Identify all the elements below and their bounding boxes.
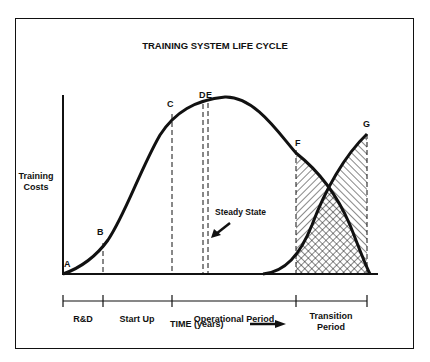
point-f-label: F (295, 138, 301, 149)
period-transition-line1: Transition (309, 311, 352, 322)
steady-state-arrow-icon (211, 223, 230, 238)
period-transition-line2: Period (317, 322, 345, 333)
y-axis-label-line2: Costs (23, 182, 48, 193)
steady-state-annotation: Steady State (215, 207, 266, 218)
period-rnd: R&D (73, 314, 93, 325)
y-axis-label-line1: Training (18, 171, 53, 182)
point-b-label: B (97, 227, 104, 238)
life-cycle-diagram (0, 0, 430, 362)
period-startup: Start Up (119, 314, 154, 325)
point-c-label: C (167, 99, 174, 110)
point-g-label: G (363, 119, 370, 130)
point-e-label: E (206, 90, 212, 101)
point-d-label: D (199, 90, 206, 101)
diagram-title: TRAINING SYSTEM LIFE CYCLE (142, 40, 288, 51)
period-scale (63, 295, 367, 307)
point-a-label: A (64, 259, 71, 270)
x-axis-label: TIME (years) (170, 319, 224, 330)
